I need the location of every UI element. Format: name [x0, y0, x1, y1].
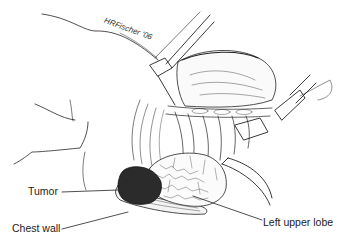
- label-left-upper-lobe: Left upper lobe: [263, 217, 333, 228]
- tumor-leader-line: [62, 190, 118, 192]
- upper-lobe-dome: [177, 50, 276, 107]
- label-chest-wall: Chest wall: [12, 223, 60, 234]
- retractor-lower-right: [222, 118, 272, 205]
- surgical-illustration: [0, 0, 340, 244]
- retractor-right: [275, 75, 332, 120]
- chest-wall-leader-line: [62, 212, 128, 229]
- label-tumor: Tumor: [28, 186, 58, 197]
